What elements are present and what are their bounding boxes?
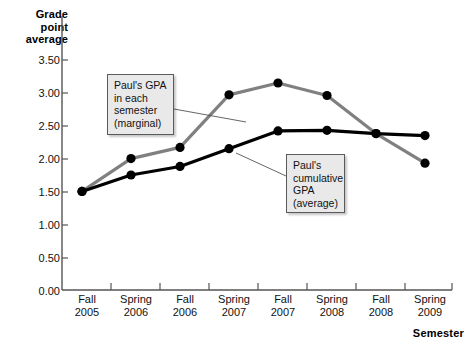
data-point-marginal-3 bbox=[224, 90, 233, 99]
data-point-cumulative-2 bbox=[175, 162, 184, 171]
x-axis-ticks bbox=[111, 283, 452, 290]
data-point-cumulative-0 bbox=[77, 187, 86, 196]
annotation-line: (marginal) bbox=[114, 117, 168, 130]
data-point-cumulative-6 bbox=[371, 129, 380, 138]
y-axis-ticks bbox=[62, 60, 68, 258]
annotation-line: semester bbox=[114, 104, 168, 117]
annotation-marginal-gpa: Paul's GPA in each semester (marginal) bbox=[107, 74, 174, 135]
data-point-cumulative-3 bbox=[224, 144, 233, 153]
data-point-marginal-4 bbox=[273, 78, 282, 87]
annotation-cumulative-gpa: Paul's cumulative GPA (average) bbox=[286, 154, 345, 213]
data-point-cumulative-1 bbox=[126, 170, 135, 179]
annotation-line: GPA bbox=[293, 184, 339, 197]
data-point-marginal-5 bbox=[322, 91, 331, 100]
data-point-cumulative-4 bbox=[273, 126, 282, 135]
annotation-line: Paul's GPA bbox=[114, 79, 168, 92]
callout-leader-cumulative bbox=[236, 153, 286, 176]
data-point-marginal-7 bbox=[420, 159, 429, 168]
data-point-cumulative-7 bbox=[420, 131, 429, 140]
annotation-line: Paul's bbox=[293, 159, 339, 172]
plot-area bbox=[0, 0, 476, 351]
data-point-marginal-1 bbox=[126, 154, 135, 163]
annotation-line: (average) bbox=[293, 197, 339, 210]
data-point-cumulative-5 bbox=[322, 126, 331, 135]
gpa-line-chart: Grade point average 3.50 3.00 2.50 2.00 … bbox=[0, 0, 476, 351]
annotation-line: cumulative bbox=[293, 172, 339, 185]
data-point-marginal-2 bbox=[175, 143, 184, 152]
callout-leader-marginal bbox=[174, 109, 246, 122]
annotation-line: in each bbox=[114, 92, 168, 105]
